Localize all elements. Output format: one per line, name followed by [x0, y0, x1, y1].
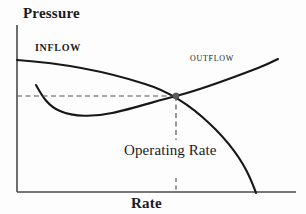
plot-canvas [0, 0, 306, 214]
inflow-curve-label: INFLOW [35, 43, 81, 53]
outflow-curve-label: OUTFLOW [190, 55, 234, 63]
operating-rate-label: Operating Rate [124, 143, 217, 158]
y-axis-label: Pressure [23, 6, 80, 21]
pressure-rate-figure: Pressure Rate INFLOW OUTFLOW Operating R… [0, 0, 306, 214]
intersection-marker-dot [173, 93, 179, 99]
x-axis-label: Rate [131, 196, 162, 211]
inflow-curve [17, 60, 256, 193]
